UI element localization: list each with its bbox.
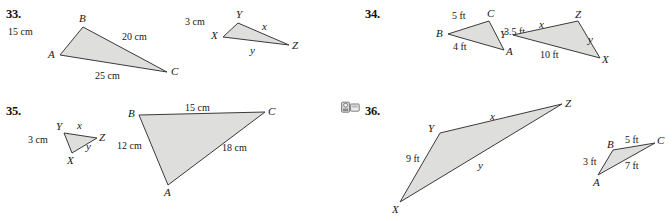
vertex-label-c: C [487,7,494,19]
side-label-4ft: 4 ft [453,41,467,52]
vertex-label-z: Z [565,97,571,109]
side-label-12cm: 12 cm [117,140,142,151]
side-label-x: x [262,20,267,32]
vertex-label-y: Y [56,120,62,132]
side-label-y: y [588,33,593,45]
textbook-exercise-page: 33. B C A 15 cm 20 cm 25 cm Y Z X 3 cm x… [0,0,672,221]
side-label-18cm: 18 cm [222,142,247,153]
vertex-label-b: B [607,138,614,150]
side-label-5ft: 5 ft [625,134,639,145]
triangle-xyz-shape [223,23,289,45]
vertex-label-c: C [268,105,275,117]
vertex-label-x: X [67,154,74,166]
vertex-label-x: X [392,203,399,215]
figure-35-triangle-bca [125,100,285,200]
side-label-x: x [490,110,495,122]
triangle-yzx-shape [64,133,97,153]
vertex-label-x: X [211,29,218,41]
vertex-label-y: Y [500,28,506,40]
side-label-10ft: 10 ft [540,49,559,60]
figure-33-triangle-xyz [200,0,320,70]
problem-number-35: 35. [6,104,21,119]
side-label-15cm: 15 cm [8,26,33,37]
vertex-label-a: A [48,48,55,60]
triangle-yzx-shape [400,104,562,202]
side-label-3cm: 3 cm [185,16,205,27]
triangle-abc-shape [60,27,167,72]
vertex-label-z: Z [292,39,298,51]
problem-number-34: 34. [365,7,380,22]
side-label-y: y [478,159,483,171]
side-label-y: y [86,140,91,152]
figure-33-triangle-abc [0,0,200,100]
vertex-label-b: B [128,107,135,119]
vertex-label-a: A [164,186,171,198]
vertex-label-z: Z [99,131,105,143]
side-label-3cm: 3 cm [28,134,48,145]
side-label-5ft: 5 ft [452,10,466,21]
problem-number-36: 36. [365,104,380,119]
vertex-label-y: Y [428,122,434,134]
technology-calculator-icon [341,101,360,114]
side-label-20cm: 20 cm [122,31,147,42]
side-label-x: x [77,119,82,131]
vertex-label-y: Y [236,8,242,20]
vertex-label-a: A [593,176,600,188]
side-label-9ft: 9 ft [406,153,420,164]
side-label-15cm: 15 cm [185,102,210,113]
vertex-label-b: B [436,27,443,39]
vertex-label-z: Z [575,8,581,20]
side-label-3ft: 3 ft [583,156,597,167]
side-label-x: x [539,18,544,30]
side-label-y: y [250,44,255,56]
vertex-label-x: X [602,53,609,65]
side-label-25cm: 25 cm [95,70,120,81]
side-label-7ft: 7 ft [625,160,639,171]
vertex-label-b: B [79,12,86,24]
vertex-label-c: C [657,134,664,146]
vertex-label-c: C [171,65,178,77]
figure-34-triangle-yzx [505,0,615,75]
